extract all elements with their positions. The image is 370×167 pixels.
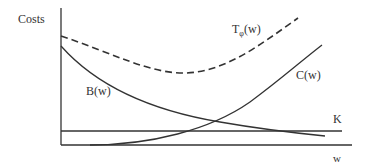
t-phi-curve bbox=[61, 18, 298, 73]
t-phi-label: Tφ(w) bbox=[232, 22, 261, 37]
k-label: K bbox=[333, 112, 342, 127]
t-arg: (w) bbox=[244, 22, 261, 36]
b-label: B(w) bbox=[86, 84, 111, 99]
cost-diagram: Costs Tφ(w) B(w) C(w) K w bbox=[0, 0, 370, 167]
plot-area bbox=[0, 0, 370, 167]
y-axis-label: Costs bbox=[18, 12, 45, 27]
x-axis-label: w bbox=[333, 152, 341, 164]
t-sub: φ bbox=[239, 29, 244, 38]
c-label: C(w) bbox=[296, 68, 321, 83]
